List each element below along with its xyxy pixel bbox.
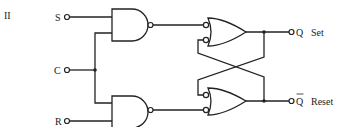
or-gate-top <box>208 18 246 46</box>
input-terminal-r <box>65 119 70 124</box>
nand-gate-top <box>112 9 148 41</box>
figure-label: II <box>4 10 11 21</box>
nand-bottom-output-bubble <box>148 108 153 113</box>
input-terminal-c <box>65 68 70 73</box>
input-label-s: S <box>55 12 61 23</box>
input-terminal-s <box>65 15 70 20</box>
junction-dot-c <box>93 68 97 72</box>
output-label-q: Q <box>296 27 304 38</box>
input-label-r: R <box>55 116 62 127</box>
input-label-c: C <box>54 65 61 76</box>
output-name-set: Set <box>311 27 324 38</box>
nand-gate-bottom <box>112 96 148 127</box>
or-bottom-input-bubble-1 <box>203 92 208 97</box>
or-top-input-bubble-1 <box>203 22 208 27</box>
output-terminal-qbar <box>289 99 294 104</box>
output-terminal-q <box>289 30 294 35</box>
gated-sr-latch-diagram: II S C R <box>0 0 337 127</box>
wire-feedback-qbar-to-top <box>198 40 264 101</box>
or-gate-bottom <box>208 88 246 115</box>
output-label-qbar: Q <box>296 96 304 107</box>
nand-top-output-bubble <box>148 23 153 28</box>
or-top-input-bubble-2 <box>203 37 208 42</box>
wire-c-bus <box>95 33 112 103</box>
or-bottom-input-bubble-2 <box>203 107 208 112</box>
output-name-reset: Reset <box>311 96 333 107</box>
